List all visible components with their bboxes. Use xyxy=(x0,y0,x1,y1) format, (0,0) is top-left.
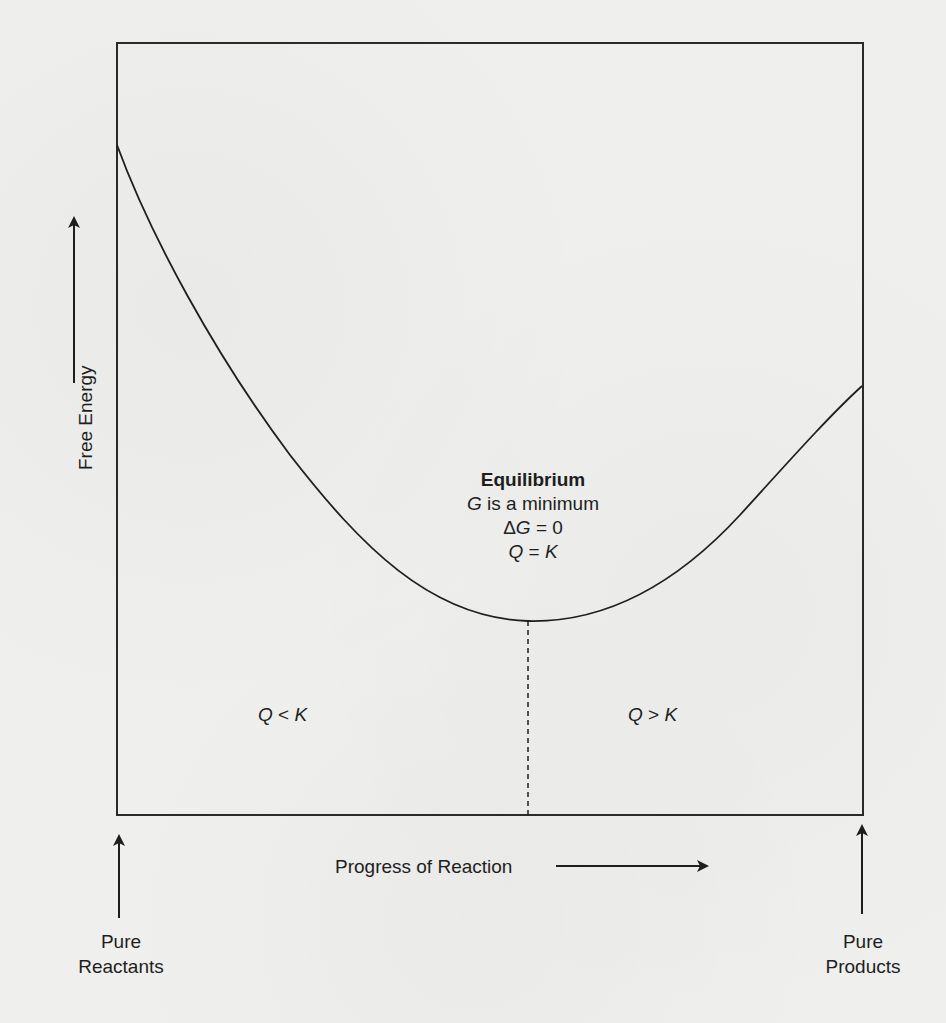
var-q: Q xyxy=(508,541,523,562)
g-minimum-text: is a minimum xyxy=(482,493,599,514)
q-less-than-k-label: Q < K xyxy=(258,704,307,726)
pure-products-line1: Pure xyxy=(808,929,918,954)
var-k: K xyxy=(545,541,558,562)
pure-reactants-line2: Reactants xyxy=(66,954,176,979)
var-k: K xyxy=(294,704,307,725)
plot-frame xyxy=(117,43,863,815)
equals-zero-text: = 0 xyxy=(531,517,563,538)
pure-products-label: Pure Products xyxy=(808,929,918,979)
var-q: Q xyxy=(258,704,273,725)
delta-symbol: Δ xyxy=(503,517,516,538)
x-axis-label-text: Progress of Reaction xyxy=(335,856,512,877)
less-than-operator: < xyxy=(273,704,295,725)
equilibrium-annotation: Equilibrium G is a minimum ΔG = 0 Q = K xyxy=(418,468,648,564)
var-g: G xyxy=(467,493,482,514)
pure-products-line2: Products xyxy=(808,954,918,979)
y-axis-label-text: Free Energy xyxy=(75,365,96,470)
equilibrium-line-g-minimum: G is a minimum xyxy=(418,492,648,516)
pure-reactants-line1: Pure xyxy=(66,929,176,954)
q-greater-than-k-label: Q > K xyxy=(628,704,677,726)
greater-than-operator: > xyxy=(643,704,665,725)
equals-operator: = xyxy=(523,541,545,562)
equilibrium-title: Equilibrium xyxy=(418,468,648,492)
pure-reactants-label: Pure Reactants xyxy=(66,929,176,979)
equilibrium-line-q-equals-k: Q = K xyxy=(418,540,648,564)
var-q: Q xyxy=(628,704,643,725)
var-k: K xyxy=(664,704,677,725)
y-axis-label: Free Energy xyxy=(75,365,97,470)
var-g: G xyxy=(516,517,531,538)
equilibrium-line-delta-g: ΔG = 0 xyxy=(418,516,648,540)
x-axis-label: Progress of Reaction xyxy=(335,856,512,878)
